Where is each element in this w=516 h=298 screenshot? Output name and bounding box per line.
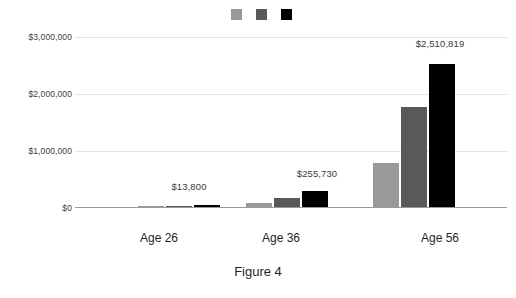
y-axis-ticks: $3,000,000 $2,000,000 $1,000,000 $0 [0, 37, 72, 208]
x-category-label-age-56: Age 56 [421, 231, 459, 245]
legend-swatch-series-2 [256, 9, 267, 20]
bar-age-26-series-2[interactable] [166, 206, 192, 207]
data-label-age-36: $255,730 [297, 168, 337, 179]
legend-swatch-series-1 [231, 9, 242, 20]
y-tick-label-2m: $2,000,000 [2, 89, 72, 99]
data-label-age-26: $13,800 [171, 181, 206, 192]
y-tick-label-1m: $1,000,000 [2, 146, 72, 156]
bar-age-56-series-3[interactable] [429, 64, 455, 207]
plot-area [75, 37, 507, 208]
legend-swatch-series-3 [281, 9, 292, 20]
figure-caption: Figure 4 [0, 264, 516, 279]
y-tick-label-0: $0 [2, 203, 72, 213]
chart-legend [231, 9, 292, 20]
bar-age-26-series-3[interactable] [194, 205, 220, 207]
data-label-age-56: $2,510,819 [416, 38, 465, 49]
bar-age-26-series-1[interactable] [138, 206, 164, 207]
figure-container: $3,000,000 $2,000,000 $1,000,000 $0 $ [0, 0, 516, 298]
y-tick-label-3m: $3,000,000 [2, 32, 72, 42]
bar-age-36-series-1[interactable] [246, 203, 272, 207]
bar-age-56-series-1[interactable] [373, 163, 399, 207]
bar-age-36-series-3[interactable] [302, 191, 328, 207]
x-category-label-age-36: Age 36 [262, 231, 300, 245]
x-category-label-age-26: Age 26 [140, 231, 178, 245]
bar-age-56-series-2[interactable] [401, 107, 427, 207]
bar-group-age-56 [373, 37, 459, 208]
bar-group-age-36 [246, 37, 332, 208]
bar-age-36-series-2[interactable] [274, 198, 300, 207]
